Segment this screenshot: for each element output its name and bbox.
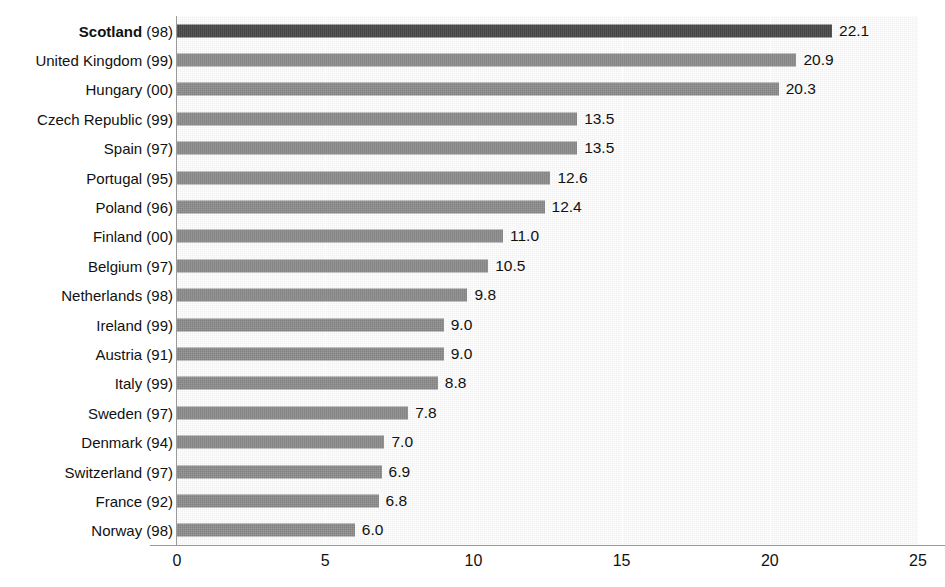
category-label: Scotland (98) — [79, 23, 173, 38]
bar-texture — [177, 494, 379, 507]
bar-row[interactable]: Norway (98)6.0 — [0, 516, 945, 545]
category-label: Italy (99) — [115, 376, 173, 391]
bar-chart: Scotland (98)22.1United Kingdom (99)20.9… — [0, 0, 945, 587]
category-label: Hungary (00) — [85, 82, 173, 97]
bar-texture — [177, 318, 444, 331]
category-name: Switzerland — [65, 463, 143, 480]
category-name: Ireland — [96, 316, 142, 333]
bar[interactable] — [177, 54, 796, 67]
bar-value-label: 6.8 — [386, 493, 408, 509]
bar-value-label: 9.0 — [451, 317, 473, 333]
x-tick-label: 20 — [761, 553, 779, 569]
category-label: Austria (91) — [95, 346, 173, 361]
bar-value-label: 8.8 — [445, 376, 467, 392]
bar[interactable] — [177, 347, 444, 360]
bar-value-label: 20.3 — [786, 82, 816, 98]
bar-texture — [177, 83, 779, 96]
bar[interactable] — [177, 201, 545, 214]
category-year: (94) — [142, 434, 173, 451]
bar-texture — [177, 259, 488, 272]
bar[interactable] — [177, 289, 467, 302]
bar[interactable] — [177, 377, 438, 390]
bar-texture — [177, 289, 467, 302]
bar-row[interactable]: Spain (97)13.5 — [0, 134, 945, 163]
category-year: (00) — [142, 228, 173, 245]
bar[interactable] — [177, 230, 503, 243]
bar-value-label: 12.4 — [552, 199, 582, 215]
category-name: Austria — [95, 345, 142, 362]
bar-row[interactable]: United Kingdom (99)20.9 — [0, 45, 945, 74]
category-label: Sweden (97) — [88, 405, 173, 420]
category-year: (97) — [142, 257, 173, 274]
bar[interactable] — [177, 406, 408, 419]
category-name: Spain — [104, 140, 142, 157]
category-name: France — [95, 492, 142, 509]
category-year: (98) — [142, 287, 173, 304]
x-tick-label: 10 — [464, 553, 482, 569]
category-label: Ireland (99) — [96, 317, 173, 332]
bar[interactable] — [177, 24, 832, 37]
bar-value-label: 11.0 — [510, 229, 539, 245]
category-year: (97) — [142, 140, 173, 157]
category-year: (98) — [142, 522, 173, 539]
bar-row[interactable]: Switzerland (97)6.9 — [0, 457, 945, 486]
bar-row[interactable]: France (92)6.8 — [0, 486, 945, 515]
bar-row[interactable]: Netherlands (98)9.8 — [0, 281, 945, 310]
bar[interactable] — [177, 494, 379, 507]
category-name: Denmark — [81, 434, 142, 451]
bar-row[interactable]: Czech Republic (99)13.5 — [0, 104, 945, 133]
bar[interactable] — [177, 112, 577, 125]
bar[interactable] — [177, 259, 488, 272]
category-label: France (92) — [95, 493, 173, 508]
bar-texture — [177, 171, 550, 184]
x-tick-label: 5 — [321, 553, 330, 569]
bar[interactable] — [177, 436, 384, 449]
bar-row[interactable]: Scotland (98)22.1 — [0, 16, 945, 45]
bar[interactable] — [177, 83, 779, 96]
bar-texture — [177, 54, 796, 67]
chart-title-cropped — [0, 0, 945, 6]
category-year: (96) — [142, 199, 173, 216]
bar-texture — [177, 465, 382, 478]
bar-value-label: 6.0 — [362, 523, 384, 539]
bar[interactable] — [177, 524, 355, 537]
bar-row[interactable]: Finland (00)11.0 — [0, 222, 945, 251]
bar-texture — [177, 142, 577, 155]
bar[interactable] — [177, 171, 550, 184]
bar-row[interactable]: Austria (91)9.0 — [0, 339, 945, 368]
bar-row[interactable]: Italy (99)8.8 — [0, 369, 945, 398]
category-name: Sweden — [88, 404, 142, 421]
category-name: Netherlands — [61, 287, 142, 304]
bar-row[interactable]: Hungary (00)20.3 — [0, 75, 945, 104]
category-label: Portugal (95) — [86, 170, 173, 185]
category-year: (91) — [142, 345, 173, 362]
bar-row[interactable]: Portugal (95)12.6 — [0, 163, 945, 192]
bar-texture — [177, 24, 832, 37]
bar-value-label: 9.8 — [474, 287, 496, 303]
bar-row[interactable]: Denmark (94)7.0 — [0, 427, 945, 456]
category-year: (98) — [142, 22, 173, 39]
bar-texture — [177, 377, 438, 390]
category-label: Poland (96) — [95, 200, 173, 215]
bar-texture — [177, 201, 545, 214]
bar-row[interactable]: Poland (96)12.4 — [0, 192, 945, 221]
bar-texture — [177, 406, 408, 419]
category-label: Norway (98) — [91, 523, 173, 538]
category-label: Czech Republic (99) — [37, 111, 173, 126]
bar-row[interactable]: Ireland (99)9.0 — [0, 310, 945, 339]
category-label: Spain (97) — [104, 141, 173, 156]
category-name: Portugal — [86, 169, 142, 186]
bar[interactable] — [177, 318, 444, 331]
category-year: (99) — [142, 52, 173, 69]
category-year: (97) — [142, 463, 173, 480]
category-year: (99) — [142, 316, 173, 333]
bar-value-label: 6.9 — [389, 464, 411, 480]
bar-row[interactable]: Belgium (97)10.5 — [0, 251, 945, 280]
bar[interactable] — [177, 465, 382, 478]
category-label: Finland (00) — [93, 229, 173, 244]
bar[interactable] — [177, 142, 577, 155]
category-year: (97) — [142, 404, 173, 421]
x-tick-label: 25 — [909, 553, 927, 569]
bar-texture — [177, 347, 444, 360]
bar-row[interactable]: Sweden (97)7.8 — [0, 398, 945, 427]
